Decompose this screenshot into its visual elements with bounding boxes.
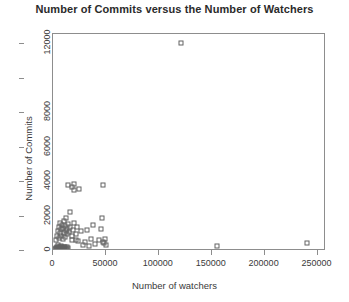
data-point: [86, 243, 91, 248]
data-point: [103, 243, 108, 248]
data-point: [98, 227, 103, 232]
x-axis-label: Number of watchers: [0, 280, 349, 291]
data-point: [67, 209, 72, 214]
data-point: [78, 228, 83, 233]
data-point: [66, 245, 71, 249]
data-point: [64, 216, 69, 221]
data-point: [91, 223, 96, 228]
x-axis-tick-label: 0: [49, 258, 54, 268]
x-axis-tick-label: 250000: [302, 258, 332, 268]
x-axis-tick-label: 100000: [143, 258, 173, 268]
x-axis-tick: [52, 250, 53, 255]
data-point: [101, 183, 106, 188]
x-axis-tick: [158, 250, 159, 255]
plot-frame: [52, 33, 325, 250]
x-axis-tick-label: 150000: [196, 258, 226, 268]
data-point: [72, 181, 77, 186]
x-axis-tick: [264, 250, 265, 255]
data-point: [71, 187, 76, 192]
data-point: [77, 187, 82, 192]
scatter-plot: Number of Commits versus the Number of W…: [0, 0, 349, 302]
y-axis-tick-label: 0: [42, 246, 52, 251]
x-axis-tick-label: 50000: [92, 258, 117, 268]
x-axis-tick: [317, 250, 318, 255]
data-points-layer: [53, 34, 324, 249]
x-axis-tick: [105, 250, 106, 255]
y-axis-tick-label: 12000: [42, 30, 52, 55]
y-axis-tick-label: 6000: [42, 136, 52, 156]
data-point: [304, 240, 309, 245]
x-axis-tick-label: 200000: [249, 258, 279, 268]
data-point: [99, 215, 104, 220]
chart-title: Number of Commits versus the Number of W…: [0, 3, 349, 15]
y-axis-tick-label: 2000: [42, 205, 52, 225]
data-point: [84, 228, 89, 233]
data-point: [103, 236, 108, 241]
data-point: [178, 41, 183, 46]
y-axis-tick: [19, 250, 24, 251]
x-axis-tick: [211, 250, 212, 255]
y-axis-tick-label: 4000: [42, 170, 52, 190]
y-axis-label: Number of Commits: [23, 79, 34, 239]
data-point: [215, 243, 220, 248]
y-axis-tick-label: 8000: [42, 101, 52, 121]
y-axis-tick: [19, 43, 24, 44]
